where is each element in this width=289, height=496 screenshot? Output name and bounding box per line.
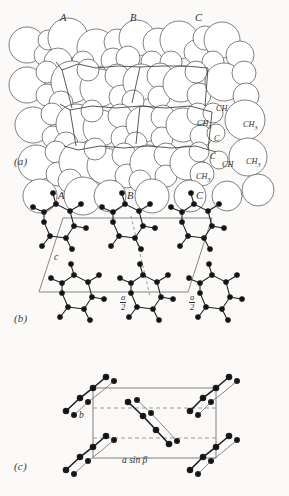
panel-label-b: (b) xyxy=(14,312,27,324)
chain-center xyxy=(126,398,180,447)
cell-diagonal-dashed xyxy=(131,216,150,296)
panel-b-fraction-a-over-2-left: a 2 xyxy=(120,293,126,311)
panel-label-a: (a) xyxy=(14,155,27,167)
panel-a-site-label-C: C xyxy=(195,12,202,23)
atom-label-ch3-1: CH3 xyxy=(197,119,211,130)
chain-top-left xyxy=(64,375,117,418)
panel-b-site-label-A: A xyxy=(58,190,64,201)
chain-bottom-right xyxy=(188,434,240,477)
panel-label-c: (c) xyxy=(14,460,27,472)
panel-b-site-label-B: B xyxy=(127,190,133,201)
crystal-structure-figure: (a) (b) (c) A B C CH CH3 CH3 C C CH CH3 … xyxy=(0,0,289,496)
atom-label-ch-1: CH xyxy=(216,104,227,113)
panel-a-site-label-B: B xyxy=(130,12,136,23)
panel-a-packing-model xyxy=(9,18,274,215)
atom-label-ch3-3: CH3 xyxy=(246,157,260,168)
atom-label-ch-2: CH xyxy=(222,160,233,169)
atom-label-c-2: C xyxy=(210,152,215,161)
panel-b-unit-cell xyxy=(31,191,245,323)
molecule-lower-right xyxy=(187,262,245,323)
panel-c-axis-label-b: b xyxy=(79,410,84,420)
projection-rectangle xyxy=(93,388,216,458)
chain-top-right xyxy=(188,375,240,418)
panel-b-axis-label-c: c xyxy=(54,252,58,262)
panel-c-axis-label-a-sin-beta: a sin β xyxy=(122,455,147,465)
atom-label-ch3-4: CH3 xyxy=(196,172,210,183)
panel-b-site-label-C: C xyxy=(196,190,203,201)
chain-bottom-left xyxy=(64,434,117,477)
atom-label-ch3-2: CH3 xyxy=(243,120,257,131)
figure-canvas xyxy=(0,0,289,496)
panel-a-site-label-A: A xyxy=(60,12,66,23)
atom-label-c-1: C xyxy=(214,134,219,143)
panel-c-projection xyxy=(64,375,240,477)
panel-b-fraction-a-over-2-right: a 2 xyxy=(189,293,195,311)
